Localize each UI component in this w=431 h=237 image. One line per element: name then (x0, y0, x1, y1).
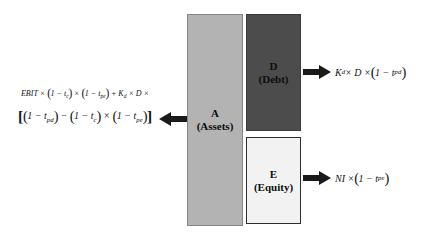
debt-flow-formula: Kd × D × (1 − tpd) (335, 56, 406, 88)
arrow-shape (303, 65, 331, 79)
debt-flow-right-arrow-icon (303, 64, 331, 80)
assets-block: A (Assets) (187, 14, 243, 226)
balance-sheet-tax-diagram: A (Assets) D (Debt) E (Equity) EBIT × (1… (0, 0, 431, 237)
assets-flow-formula-line1: EBIT × (1 − tc) × (1 − tpe) + Kd × D × (6, 84, 164, 103)
debt-name: (Debt) (259, 73, 289, 86)
debt-block: D (Debt) (246, 14, 301, 131)
assets-name: (Assets) (197, 120, 234, 133)
equity-block: E (Equity) (246, 137, 301, 224)
debt-symbol: D (270, 60, 278, 73)
assets-flow-formula: EBIT × (1 − tc) × (1 − tpe) + Kd × D × [… (6, 84, 164, 129)
arrow-shape (303, 171, 331, 185)
assets-symbol: A (211, 107, 219, 120)
assets-flow-formula-line2: [(1 − tpd) − (1 − tc) × (1 − tpe)] (6, 103, 164, 129)
equity-name: (Equity) (254, 181, 293, 194)
equity-flow-right-arrow-icon (303, 170, 331, 186)
equity-flow-formula: NI × (1 − tpe) (335, 162, 389, 194)
equity-symbol: E (270, 168, 277, 181)
